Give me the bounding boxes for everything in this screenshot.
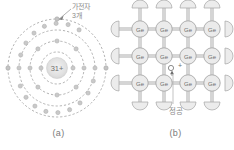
lattice-atom-label: Ge	[136, 81, 145, 87]
lattice-atom: Ge	[204, 75, 220, 91]
lattice-atom-label: Ge	[208, 54, 217, 60]
lattice-atom-label: Ge	[136, 27, 145, 33]
valence-electron-2	[55, 17, 59, 21]
lattice-atom-label: Ge	[208, 81, 217, 87]
panel-b-crystal-lattice: Ge Ge Ge Ge Ge	[117, 0, 234, 150]
lattice-atoms: Ge Ge Ge Ge Ge	[132, 21, 220, 91]
figure-root: 31+ 가전자 3개 (a)	[0, 0, 234, 150]
hole-arrowhead-icon	[170, 71, 174, 75]
lattice-atom-label: Ge	[184, 81, 193, 87]
valence-electron-3	[6, 66, 10, 70]
valence-electron-1	[104, 66, 108, 70]
lattice-atom-label: Ge	[136, 54, 145, 60]
valence-electron-annotation: 가전자 3개	[72, 3, 90, 20]
lattice-atom: Ge	[156, 21, 172, 37]
panel-a-bohr-atom: 31+ 가전자 3개 (a)	[0, 0, 117, 150]
lattice-atom: Ge	[204, 21, 220, 37]
valence-leader-line	[59, 9, 71, 19]
lattice-atom-label: Ge	[184, 54, 193, 60]
lattice-atom-label: Ge	[184, 27, 193, 33]
lattice-atom-label: Ge	[208, 27, 217, 33]
caption-a: (a)	[0, 128, 117, 138]
lattice-atom: Ge	[132, 48, 148, 64]
hole-marker-icon	[168, 65, 173, 70]
bohr-atom-icon: 31+	[0, 0, 117, 126]
lattice-atom-label: Ge	[160, 54, 169, 60]
lattice-atom: Ge	[180, 48, 196, 64]
lattice-atom: Ge	[132, 75, 148, 91]
lattice-atom: Ge	[204, 48, 220, 64]
lattice-atom-label: Ge	[160, 81, 169, 87]
lattice-atom-label: Ge	[160, 27, 169, 33]
crystal-lattice-icon: Ge Ge Ge Ge Ge	[117, 0, 234, 110]
lattice-edge-atoms-right	[225, 21, 233, 91]
hole-charge-sign: +	[178, 62, 182, 69]
caption-b: (b)	[117, 128, 234, 138]
nucleus-charge-label: 31+	[51, 64, 64, 73]
hole-label: 정공	[117, 108, 234, 117]
lattice-atom: Ge	[132, 21, 148, 37]
lattice-atom: Ge	[180, 21, 196, 37]
lattice-edge-atoms-left	[111, 21, 119, 91]
lattice-atom: Ge	[180, 75, 196, 91]
lattice-atom: Ge	[156, 75, 172, 91]
lattice-atom: Ge	[156, 48, 172, 64]
lattice-edge-atoms-top	[132, 0, 220, 8]
